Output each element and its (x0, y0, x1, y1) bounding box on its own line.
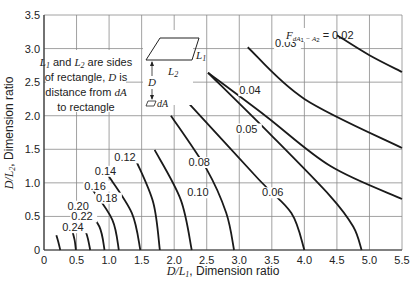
curve-label: 0.20 (67, 200, 88, 212)
svg-text:distance from dA: distance from dA (45, 86, 127, 98)
curve-label: 0.05 (236, 123, 257, 135)
curve-F-0.24 (56, 235, 60, 250)
svg-text:L1 and L2 are sides: L1 and L2 are sides (39, 56, 133, 70)
curve-label: 0.24 (62, 221, 83, 233)
curve-label: 0.22 (71, 210, 92, 222)
curve-label: 0.10 (187, 186, 208, 198)
y-tick-label: 0 (34, 244, 40, 256)
y-tick-label: 2.5 (25, 76, 40, 88)
geometry-inset-diagram: L1 L2 D dA (143, 30, 206, 109)
x-tick-label: 5.0 (362, 254, 377, 266)
svg-text:D: D (147, 76, 156, 88)
curve-F-0.04 (208, 73, 402, 199)
svg-text:of rectangle, D is: of rectangle, D is (45, 71, 128, 83)
curve-label: 0.06 (262, 186, 283, 198)
svg-text:to rectangle: to rectangle (57, 101, 114, 113)
y-tick-label: 1.5 (25, 143, 40, 155)
curve-label: 0.12 (114, 151, 135, 163)
curve-F-0.12 (136, 161, 159, 250)
svg-text:L1: L1 (195, 49, 206, 63)
y-tick-label: 0.5 (25, 210, 40, 222)
x-tick-label: 4.5 (329, 254, 344, 266)
x-axis-title: D/L1, Dimension ratio (166, 264, 280, 279)
x-tick-label: 1.5 (134, 254, 149, 266)
chart-figure: 00.51.01.52.02.53.03.54.04.55.05.500.51.… (0, 0, 415, 285)
curve-label: 0.04 (239, 84, 260, 96)
x-tick-label: 0 (41, 254, 47, 266)
x-tick-label: 0.5 (69, 254, 84, 266)
curve-label: 0.18 (96, 192, 117, 204)
curve-F-0.10 (155, 150, 192, 250)
curve-F-0.14 (108, 175, 141, 250)
x-tick-label: 5.5 (394, 254, 409, 266)
curve-F-0.03 (248, 47, 402, 148)
x-tick-label: 1.0 (101, 254, 116, 266)
y-axis-title: D/L2, Dimension ratio (2, 76, 17, 190)
view-factor-label: FdA1 − A2 = 0.02 (284, 28, 354, 43)
y-tick-label: 3.0 (25, 43, 40, 55)
description-annotation: L1 and L2 are sides of rectangle, D is d… (39, 50, 133, 113)
y-tick-label: 2.0 (25, 110, 40, 122)
x-tick-label: 4.0 (297, 254, 312, 266)
y-tick-label: 1.0 (25, 177, 40, 189)
curve-label: 0.08 (189, 156, 210, 168)
curve-F-0.05 (208, 73, 362, 250)
curve-label: 0.16 (84, 180, 105, 192)
curve-label: 0.14 (95, 165, 116, 177)
y-tick-label: 3.5 (25, 9, 40, 21)
svg-text:dA: dA (157, 98, 169, 109)
